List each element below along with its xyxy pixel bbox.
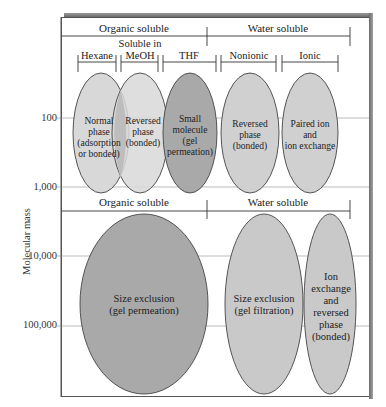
mid-organic-label: Organic soluble bbox=[99, 196, 169, 208]
solvent-soluble-in: Soluble in bbox=[119, 38, 163, 49]
solvent-nonionic: Nonionic bbox=[229, 50, 268, 61]
solvent-thf: THF bbox=[179, 50, 199, 61]
region-size-exclusion-gel-filtration bbox=[225, 214, 303, 394]
diagram-svg: Organic soluble Water soluble Hexane Sol… bbox=[0, 0, 386, 407]
solvent-ionic: Ionic bbox=[299, 50, 321, 61]
top-water-label: Water soluble bbox=[248, 22, 309, 34]
high-mass-regions bbox=[80, 214, 356, 394]
region-size-exclusion-gel-permeation bbox=[80, 214, 208, 394]
mid-water-label: Water soluble bbox=[248, 196, 309, 208]
solvent-hexane: Hexane bbox=[81, 50, 113, 61]
top-organic-label: Organic soluble bbox=[99, 22, 169, 34]
svg-text:Size exclusion(gel permeation): Size exclusion(gel permeation) bbox=[109, 293, 179, 317]
svg-text:Size exclusion(gel filtration): Size exclusion(gel filtration) bbox=[234, 293, 296, 317]
solvent-meoh: MeOH bbox=[125, 50, 155, 61]
